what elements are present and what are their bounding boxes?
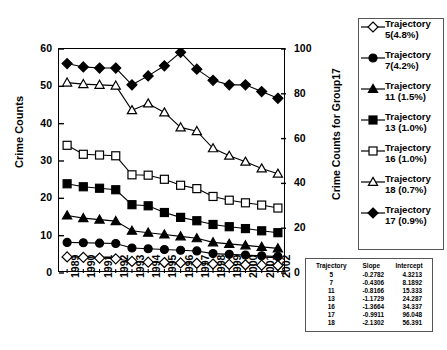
y-tick-right-60: 60	[294, 133, 320, 143]
stats-cell: -0.4306	[353, 279, 391, 287]
y-tick-right-80: 80	[294, 88, 320, 98]
stats-table-box: TrajectorySlopeIntercept 5-0.27824.32137…	[305, 258, 433, 332]
stats-cell: 18	[310, 319, 353, 327]
open-triangle-icon	[361, 175, 385, 189]
legend-item-label: Trajectory 13 (1.0%)	[385, 112, 431, 133]
stats-cell: 13	[310, 295, 353, 303]
stats-cell: 24.287	[390, 295, 428, 303]
stats-cell: 8.1892	[390, 279, 428, 287]
y-tick-right-100: 100	[294, 43, 320, 53]
filled-diamond-icon	[361, 206, 385, 220]
y-tick-left-30: 30	[26, 155, 52, 165]
stats-header-2: Intercept	[390, 262, 428, 271]
y-axis-left-title: Crime Counts	[13, 67, 25, 197]
stats-cell: 7	[310, 279, 353, 287]
series-3	[63, 180, 282, 237]
filled-circle-icon	[361, 51, 385, 65]
stats-cell: -0.2782	[353, 271, 391, 279]
stats-cell: 56.391	[390, 319, 428, 327]
legend-item-1[interactable]: Trajectory 7(4.2%)	[359, 50, 443, 81]
stats-table-row: 7-0.43068.1892	[310, 279, 428, 287]
legend-item-label: Trajectory 16 (1.0%)	[385, 143, 431, 164]
y-axis-right-title: Crime Counts for Group17	[330, 44, 342, 224]
stats-table-row: 17-0.991196.048	[310, 311, 428, 319]
stats-cell: 15.333	[390, 287, 428, 295]
stats-table-row: 18-2.130256.391	[310, 319, 428, 327]
stats-cell: 4.3213	[390, 271, 428, 279]
series-5	[63, 78, 283, 177]
stats-header-0: Trajectory	[310, 262, 353, 271]
stats-table-header-row: TrajectorySlopeIntercept	[310, 262, 428, 271]
stats-cell: 34.337	[390, 303, 428, 311]
stats-cell: 96.048	[390, 311, 428, 319]
legend-item-6[interactable]: Trajectory 17 (0.9%)	[359, 205, 443, 236]
stats-table-body: 5-0.27824.32137-0.43068.189211-0.816615.…	[310, 271, 428, 327]
stats-cell: 16	[310, 303, 353, 311]
stats-table-row: 5-0.27824.3213	[310, 271, 428, 279]
stats-table-row: 16-1.366434.337	[310, 303, 428, 311]
legend-item-5[interactable]: Trajectory 18 (0.7%)	[359, 174, 443, 205]
stats-cell: 11	[310, 287, 353, 295]
legend-item-label: Trajectory 7(4.2%)	[385, 50, 431, 71]
legend-item-label: Trajectory 11 (1.5%)	[385, 81, 431, 102]
stats-cell: -1.3664	[353, 303, 391, 311]
series-6	[62, 48, 283, 103]
open-square-icon	[361, 144, 385, 158]
stats-cell: -0.8166	[353, 287, 391, 295]
y-tick-left-40: 40	[26, 118, 52, 128]
chart-figure: Crime Counts Crime Counts for Group17 01…	[0, 0, 447, 350]
legend-item-3[interactable]: Trajectory 13 (1.0%)	[359, 112, 443, 143]
legend-item-label: Trajectory 18 (0.7%)	[385, 174, 431, 195]
stats-cell: -2.1302	[353, 319, 391, 327]
y-tick-left-20: 20	[26, 192, 52, 202]
stats-cell: -0.9911	[353, 311, 391, 319]
y-tick-left-10: 10	[26, 230, 52, 240]
legend: Trajectory 5(4.8%)Trajectory 7(4.2%)Traj…	[358, 18, 444, 250]
y-tick-left-50: 50	[26, 80, 52, 90]
legend-item-2[interactable]: Trajectory 11 (1.5%)	[359, 81, 443, 112]
plot-area	[58, 48, 285, 272]
stats-table-row: 13-1.172924.287	[310, 295, 428, 303]
legend-item-label: Trajectory 5(4.8%)	[385, 19, 431, 40]
legend-item-4[interactable]: Trajectory 16 (1.0%)	[359, 143, 443, 174]
series-4	[63, 141, 282, 212]
stats-cell: 17	[310, 311, 353, 319]
stats-cell: 5	[310, 271, 353, 279]
plot-svg	[58, 48, 287, 274]
filled-square-icon	[361, 113, 385, 127]
stats-header-1: Slope	[353, 262, 391, 271]
y-tick-right-40: 40	[294, 177, 320, 187]
stats-cell: -1.1729	[353, 295, 391, 303]
open-diamond-icon	[361, 20, 385, 34]
stats-table-row: 11-0.816615.333	[310, 287, 428, 295]
y-tick-left-0: 0	[26, 267, 52, 277]
stats-table: TrajectorySlopeIntercept 5-0.27824.32137…	[310, 262, 428, 327]
y-tick-right-20: 20	[294, 222, 320, 232]
legend-item-label: Trajectory 17 (0.9%)	[385, 205, 431, 226]
y-tick-left-60: 60	[26, 43, 52, 53]
legend-item-0[interactable]: Trajectory 5(4.8%)	[359, 19, 443, 50]
filled-triangle-icon	[361, 82, 385, 96]
